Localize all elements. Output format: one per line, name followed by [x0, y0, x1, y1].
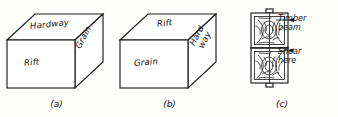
caption-b: (b) [113, 99, 226, 109]
figure-panel-a: Hardway Rift Grain (a) [0, 0, 113, 117]
caption-a: (a) [0, 99, 113, 109]
figure-illustration: Hardway Rift Grain (a) Rift Grain Hard w… [0, 0, 338, 117]
annotation-timber-beam-line1: Timber [278, 14, 306, 23]
beam-top-bolt-tab [266, 9, 273, 13]
annotation-timber-beam-line2: beam [278, 23, 301, 32]
figure-panel-b: Rift Grain Hard way (b) [113, 0, 226, 117]
block-a-front-label: Rift [24, 57, 40, 67]
block-a-front-face [7, 40, 75, 88]
annotation-shear-here: Shear here [278, 47, 301, 65]
annotation-shear-here-line2: here [278, 56, 296, 65]
figure-panel-c: Timber beam Shear here (c) [226, 0, 338, 117]
beam-bottom-bolt-tab [266, 83, 273, 87]
block-b-top-label: Rift [157, 18, 173, 28]
caption-c: (c) [226, 99, 338, 109]
annotation-timber-beam: Timber beam [278, 14, 306, 32]
annotation-shear-here-line1: Shear [278, 47, 301, 56]
